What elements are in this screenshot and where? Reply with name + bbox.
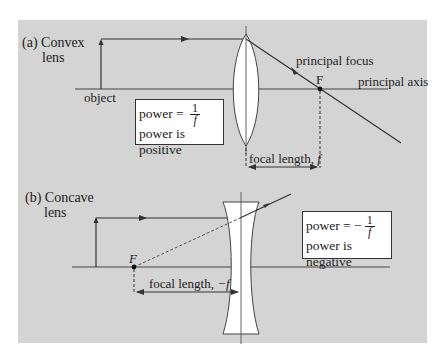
fraction-denominator: f	[190, 115, 200, 126]
principal-focus-label: principal focus	[296, 54, 374, 68]
power-box-negative: power = −1f power is negative	[302, 211, 392, 259]
convex-lens-section	[75, 26, 401, 168]
focal-length-text: focal length,	[249, 151, 317, 166]
fraction: 1f	[190, 103, 200, 126]
focus-marker-label-b: F	[129, 252, 137, 266]
focal-length-label: focal length, f	[249, 152, 321, 166]
focal-length-label-b: focal length, −f	[149, 277, 230, 291]
virtual-ray	[134, 218, 240, 267]
section-title-line2-b: lens	[25, 205, 94, 220]
focal-length-text-b: focal length,	[149, 276, 217, 291]
focus-marker-label: F	[316, 73, 323, 87]
power-formula-b: power = −1f	[306, 215, 389, 238]
section-title: (a) Convex	[22, 35, 85, 50]
section-title-line2: lens	[22, 50, 85, 65]
power-box-positive: power = 1f power is positive	[135, 99, 224, 145]
section-title-b: (b) Concave	[25, 190, 94, 205]
power-prefix: power =	[139, 106, 187, 121]
power-formula: power = 1f	[139, 103, 221, 126]
power-prefix-b: power = −	[306, 218, 362, 233]
object-label: object	[84, 91, 116, 105]
concave-section-label: (b) Concave lens	[25, 190, 94, 220]
fraction-b: 1f	[365, 215, 375, 238]
focal-point-dot	[318, 87, 323, 92]
power-sign-text: power is positive	[139, 126, 221, 158]
focal-length-symbol: f	[317, 151, 321, 166]
principal-axis-label: principal axis	[358, 75, 428, 89]
fraction-denominator-b: f	[365, 227, 375, 238]
focal-length-symbol-b: −f	[217, 276, 229, 291]
power-sign-text-b: power is negative	[306, 238, 389, 270]
convex-section-label: (a) Convex lens	[22, 35, 85, 65]
